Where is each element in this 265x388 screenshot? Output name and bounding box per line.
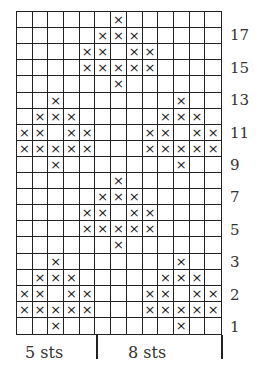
stitch-x-icon: × xyxy=(33,125,49,141)
chart-cell xyxy=(64,157,80,173)
chart-cell xyxy=(111,93,127,109)
chart-cell xyxy=(80,93,96,109)
chart-cell xyxy=(190,254,206,270)
stitch-x-icon: × xyxy=(111,173,127,189)
chart-cell xyxy=(17,60,33,76)
chart-cell xyxy=(80,173,96,189)
chart-cell xyxy=(143,318,159,334)
chart-cell xyxy=(127,318,143,334)
chart-cell xyxy=(33,237,49,253)
chart-cell xyxy=(158,157,174,173)
stitch-x-icon: × xyxy=(48,141,64,157)
chart-cell xyxy=(80,28,96,44)
chart-cell xyxy=(80,157,96,173)
stitch-x-icon: × xyxy=(143,44,159,60)
chart-cell xyxy=(48,76,64,92)
chart-cell xyxy=(205,318,221,334)
stitch-x-icon: × xyxy=(127,28,143,44)
repeat-divider-left xyxy=(96,335,98,359)
stitch-x-icon: × xyxy=(174,318,190,334)
chart-cell xyxy=(158,205,174,221)
chart-cell xyxy=(33,157,49,173)
chart-cell xyxy=(143,254,159,270)
chart-cell xyxy=(33,60,49,76)
stitch-x-icon: × xyxy=(143,286,159,302)
stitch-x-icon: × xyxy=(80,44,96,60)
chart-cell xyxy=(174,286,190,302)
chart-cell xyxy=(48,286,64,302)
chart-cell xyxy=(17,189,33,205)
stitch-x-icon: × xyxy=(33,109,49,125)
stitch-x-icon: × xyxy=(111,221,127,237)
chart-cell xyxy=(158,76,174,92)
chart-cell xyxy=(111,254,127,270)
chart-cell xyxy=(174,76,190,92)
chart-cell xyxy=(190,237,206,253)
chart-cell xyxy=(174,205,190,221)
chart-cell xyxy=(33,254,49,270)
chart-cell xyxy=(95,318,111,334)
stitch-x-icon: × xyxy=(158,109,174,125)
chart-cell xyxy=(33,12,49,28)
chart-cell xyxy=(190,318,206,334)
chart-cell xyxy=(95,237,111,253)
chart-cell xyxy=(127,302,143,318)
chart-cell xyxy=(95,125,111,141)
chart-cell xyxy=(17,28,33,44)
chart-cell xyxy=(48,60,64,76)
row-label: 7 xyxy=(230,189,260,205)
chart-cell xyxy=(205,189,221,205)
stitch-x-icon: × xyxy=(64,109,80,125)
chart-cell xyxy=(174,60,190,76)
chart-cell xyxy=(95,302,111,318)
chart-cell xyxy=(33,221,49,237)
chart-cell xyxy=(17,221,33,237)
stitch-x-icon: × xyxy=(174,141,190,157)
chart-cell xyxy=(127,237,143,253)
chart-cell xyxy=(64,44,80,60)
row-label: 1 xyxy=(230,319,260,335)
chart-cell xyxy=(174,221,190,237)
chart-cell xyxy=(205,28,221,44)
chart-cell xyxy=(33,205,49,221)
stitch-x-icon: × xyxy=(143,141,159,157)
stitch-x-icon: × xyxy=(111,237,127,253)
stitch-x-icon: × xyxy=(190,109,206,125)
stitch-x-icon: × xyxy=(80,286,96,302)
chart-cell xyxy=(48,221,64,237)
stitch-x-icon: × xyxy=(64,125,80,141)
chart-cell xyxy=(95,93,111,109)
chart-cell xyxy=(174,12,190,28)
row-label: 9 xyxy=(230,157,260,173)
stitch-x-icon: × xyxy=(95,221,111,237)
chart-cell xyxy=(190,173,206,189)
chart-cell xyxy=(158,221,174,237)
chart-cell xyxy=(80,237,96,253)
stitch-x-icon: × xyxy=(17,302,33,318)
stitch-x-icon: × xyxy=(48,157,64,173)
chart-cell xyxy=(17,44,33,60)
stitch-x-icon: × xyxy=(158,302,174,318)
stitch-x-icon: × xyxy=(95,205,111,221)
stitch-x-icon: × xyxy=(190,270,206,286)
chart-cell xyxy=(205,221,221,237)
stitch-x-icon: × xyxy=(33,302,49,318)
stitch-x-icon: × xyxy=(80,221,96,237)
stitch-x-icon: × xyxy=(95,44,111,60)
chart-cell xyxy=(17,76,33,92)
chart-cell xyxy=(158,318,174,334)
chart-cell xyxy=(33,76,49,92)
chart-cell xyxy=(64,318,80,334)
chart-cell xyxy=(127,125,143,141)
chart-cell xyxy=(205,270,221,286)
chart-cell xyxy=(190,93,206,109)
stitch-x-icon: × xyxy=(48,254,64,270)
stitch-x-icon: × xyxy=(17,286,33,302)
chart-cell xyxy=(48,44,64,60)
chart-cell xyxy=(205,237,221,253)
chart-cell xyxy=(143,173,159,189)
stitch-x-icon: × xyxy=(143,60,159,76)
stitch-x-icon: × xyxy=(111,60,127,76)
stitch-x-icon: × xyxy=(205,302,221,318)
stitch-x-icon: × xyxy=(64,302,80,318)
